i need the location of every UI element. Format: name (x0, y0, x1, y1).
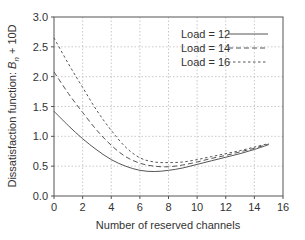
y-tick-label: 1.5 (33, 101, 48, 113)
legend-label: Load = 14 (181, 42, 230, 54)
y-tick-label: 2.0 (33, 71, 48, 83)
y-tick-labels: 0.00.51.01.52.02.53.0 (33, 11, 48, 202)
y-axis-label: Dissatisfaction function: Bn + 10D (6, 24, 21, 187)
x-tick-label: 4 (108, 201, 114, 213)
x-tick-label: 6 (137, 201, 143, 213)
x-tick-label: 0 (51, 201, 57, 213)
y-tick-label: 3.0 (33, 11, 48, 23)
x-tick-label: 8 (165, 201, 171, 213)
x-tick-label: 16 (277, 201, 289, 213)
data-series (54, 38, 269, 172)
x-tick-label: 14 (248, 201, 260, 213)
x-tick-label: 10 (191, 201, 203, 213)
y-tick-label: 0.0 (33, 190, 48, 202)
y-tick-label: 2.5 (33, 41, 48, 53)
y-tick-label: 1.0 (33, 130, 48, 142)
x-tick-label: 12 (220, 201, 232, 213)
legend-label: Load = 12 (181, 28, 230, 40)
grid-lines (54, 17, 283, 196)
legend-label: Load = 16 (181, 56, 230, 68)
x-tick-label: 2 (80, 201, 86, 213)
legend: Load = 12Load = 14Load = 16 (181, 28, 268, 68)
series-line-3 (54, 38, 269, 163)
x-tick-labels: 0246810121416 (51, 201, 289, 213)
chart-container: 0246810121416 0.00.51.01.52.02.53.0 Load… (0, 0, 305, 240)
y-tick-label: 0.5 (33, 160, 48, 172)
x-axis-label: Number of reserved channels (96, 219, 241, 231)
series-line-2 (54, 72, 269, 167)
axes (51, 17, 283, 199)
